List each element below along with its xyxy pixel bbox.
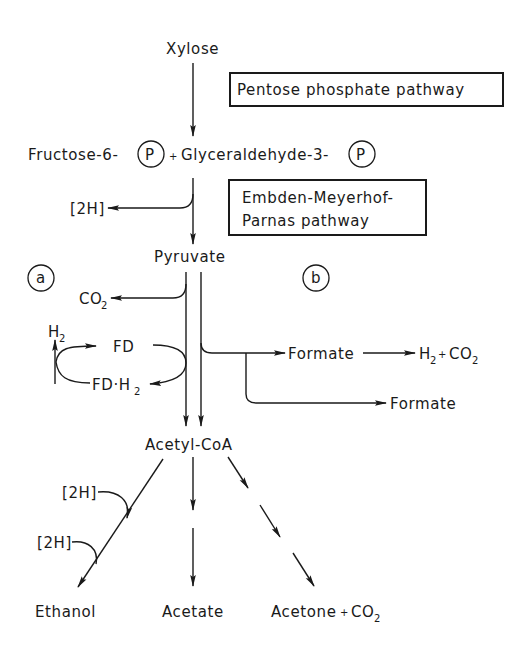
pentose-phosphate-pathway-box: Pentose phosphate pathway xyxy=(230,73,503,106)
arrow-fd-cycle-top xyxy=(56,346,96,362)
arrow-acetylcoa-to-ethanol xyxy=(78,459,163,587)
fd-h2-label: FD·H 2 xyxy=(92,376,141,397)
svg-text:2: 2 xyxy=(374,613,381,624)
svg-text:Acetone: Acetone xyxy=(271,603,336,621)
xylose-label: Xylose xyxy=(166,40,219,58)
h2-co2-label: H 2 + CO 2 xyxy=(419,345,479,366)
phosphate-circle-icon: P xyxy=(138,141,164,167)
cofactor-2h-label: [2H] xyxy=(70,200,105,218)
acetone-co2-label: Acetone + CO 2 xyxy=(271,603,381,624)
svg-text:CO: CO xyxy=(351,603,374,621)
svg-text:CO: CO xyxy=(449,345,472,363)
svg-text:2: 2 xyxy=(430,355,437,366)
svg-text:2: 2 xyxy=(472,355,479,366)
cofactor-2h-label-1: [2H] xyxy=(62,484,97,502)
svg-text:CO: CO xyxy=(79,290,102,308)
phosphate-circle-icon: P xyxy=(349,141,375,167)
svg-text:2: 2 xyxy=(134,386,141,397)
arrow-fd-cycle-bottom-left xyxy=(56,362,90,383)
formate-label-2: Formate xyxy=(390,395,456,413)
fd-label: FD xyxy=(113,338,134,356)
svg-text:Embden-Meyerhof-: Embden-Meyerhof- xyxy=(242,189,394,207)
arrow-to-formate-1 xyxy=(201,343,285,353)
route-a-marker: a xyxy=(28,265,54,291)
arrow-2h-input-1 xyxy=(98,492,128,518)
ethanol-label: Ethanol xyxy=(35,603,96,621)
cofactor-2h-label-2: [2H] xyxy=(37,534,72,552)
svg-text:+: + xyxy=(438,349,447,360)
embden-meyerhof-parnas-box: Embden-Meyerhof- Parnas pathway xyxy=(229,180,426,235)
arrow-co2-release xyxy=(111,284,186,298)
plus-sign: + xyxy=(169,151,178,162)
pyruvate-label: Pyruvate xyxy=(154,248,226,266)
arrow-2h-input-2 xyxy=(72,542,96,564)
acetyl-coa-label: Acetyl-CoA xyxy=(145,436,233,454)
arrow-acetylcoa-to-acetone-seg1 xyxy=(228,457,248,488)
svg-text:+: + xyxy=(340,607,349,618)
h2-label: H 2 xyxy=(48,323,66,344)
pathway-diagram: Xylose Pentose phosphate pathway Fructos… xyxy=(0,0,524,649)
svg-text:2: 2 xyxy=(101,300,108,311)
formate-label-1: Formate xyxy=(288,345,354,363)
svg-text:P: P xyxy=(356,146,366,164)
arrow-acetylcoa-to-acetone-seg3 xyxy=(293,553,314,586)
svg-text:P: P xyxy=(145,146,155,164)
svg-text:b: b xyxy=(311,269,321,287)
svg-text:a: a xyxy=(36,269,46,287)
route-b-marker: b xyxy=(303,265,329,291)
svg-text:Parnas pathway: Parnas pathway xyxy=(242,212,370,230)
acetate-label: Acetate xyxy=(162,603,224,621)
arrow-2h-release xyxy=(108,194,193,208)
arrow-fd-to-fdh2 xyxy=(150,345,186,384)
arrow-acetylcoa-to-acetone-seg2 xyxy=(260,505,280,537)
fructose-6-phosphate-label: Fructose-6- xyxy=(28,146,119,164)
svg-text:Pentose phosphate pathway: Pentose phosphate pathway xyxy=(237,81,465,99)
svg-text:FD·H: FD·H xyxy=(92,376,131,394)
svg-text:2: 2 xyxy=(59,333,66,344)
glyceraldehyde-3-phosphate-label: Glyceraldehyde-3- xyxy=(181,146,329,164)
co2-label: CO 2 xyxy=(79,290,108,311)
